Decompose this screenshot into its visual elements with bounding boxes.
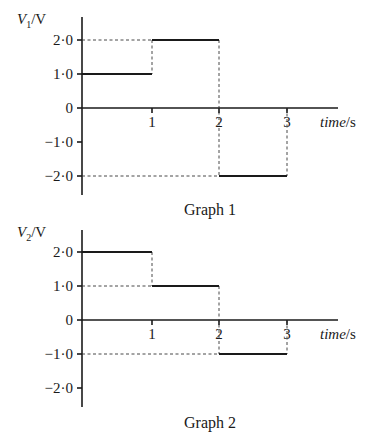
graph-1-y-tick-labels: 2·0 1·0 0 −1·0 −2·0 [45, 32, 73, 184]
graph-1-y-axis-label: V1/V [17, 11, 46, 30]
graph-1: V1/V 2·0 1·0 0 −1·0 −2·0 1 2 3 [17, 11, 356, 195]
svg-text:0: 0 [66, 100, 74, 116]
graph-2-x-axis-label: time/s [320, 326, 356, 342]
svg-text:0: 0 [66, 312, 74, 328]
svg-text:−2·0: −2·0 [45, 380, 73, 396]
graph-1-x-tick-labels: 1 2 3 [148, 114, 291, 130]
graph-2-caption: Graph 2 [184, 414, 236, 432]
graph-2-y-axis-label: V2/V [17, 224, 46, 243]
svg-text:2: 2 [215, 114, 223, 130]
graph-2: V2/V 2·0 1·0 0 −1·0 −2·0 1 2 3 time/s [17, 224, 356, 407]
svg-text:2·0: 2·0 [53, 244, 73, 260]
graph-2-y-tick-labels: 2·0 1·0 0 −1·0 −2·0 [45, 244, 73, 396]
svg-text:1: 1 [148, 114, 156, 130]
svg-text:2·0: 2·0 [53, 32, 73, 48]
svg-text:1·0: 1·0 [53, 278, 73, 294]
svg-text:−1·0: −1·0 [45, 346, 73, 362]
graph-2-guides [82, 252, 287, 354]
graph-1-caption: Graph 1 [184, 201, 236, 219]
svg-text:1: 1 [148, 326, 156, 342]
svg-text:1·0: 1·0 [53, 66, 73, 82]
svg-text:2: 2 [215, 326, 223, 342]
graph-1-x-axis-label: time/s [320, 114, 356, 130]
svg-text:−2·0: −2·0 [45, 168, 73, 184]
graph-2-trace [82, 252, 287, 354]
svg-text:−1·0: −1·0 [45, 134, 73, 150]
graph-2-x-tick-labels: 1 2 3 [148, 326, 291, 342]
graphs-canvas: V1/V 2·0 1·0 0 −1·0 −2·0 1 2 3 [0, 0, 380, 445]
